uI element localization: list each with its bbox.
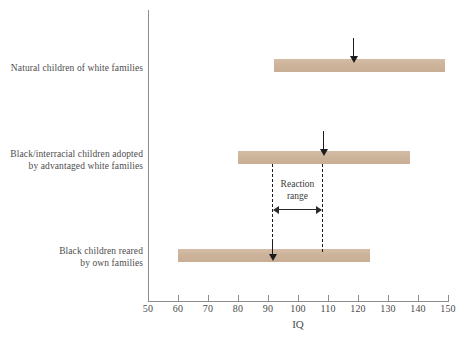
arrow-shaft: [278, 209, 317, 210]
mean-arrow-natural-children-white: [349, 38, 358, 57]
x-tick-60: [178, 295, 179, 302]
arrow-shaft: [353, 38, 354, 57]
x-tick-120: [358, 295, 359, 302]
reaction-range-chart: 50 60 70 80 90 100 110 120 130 140 150 I…: [0, 0, 472, 340]
x-tick-110: [328, 295, 329, 302]
x-tick-70: [208, 295, 209, 302]
x-tick-label-60: 60: [173, 303, 183, 314]
x-tick-label-50: 50: [143, 303, 153, 314]
y-axis-line: [148, 10, 149, 302]
x-tick-130: [388, 295, 389, 302]
x-tick-90: [268, 295, 269, 302]
x-axis-title: IQ: [292, 318, 304, 330]
arrow-head-down-icon: [320, 149, 328, 156]
arrow-shaft: [323, 131, 324, 150]
x-tick-label-90: 90: [263, 303, 273, 314]
x-tick-140: [418, 295, 419, 302]
x-tick-label-130: 130: [380, 303, 396, 314]
category-label-adopted-children: Black/interracial children adopted by ad…: [10, 148, 143, 172]
x-tick-label-140: 140: [410, 303, 426, 314]
reaction-range-double-arrow-icon: [273, 205, 322, 214]
x-tick-label-120: 120: [350, 303, 366, 314]
x-tick-label-110: 110: [320, 303, 335, 314]
mean-arrow-adopted-children: [319, 131, 328, 150]
x-tick-label-150: 150: [440, 303, 456, 314]
x-tick-50: [148, 295, 149, 302]
x-tick-100: [298, 295, 299, 302]
x-tick-150: [448, 295, 449, 302]
category-label-natural-children-white: Natural children of white families: [11, 62, 143, 74]
arrow-head-down-icon: [350, 56, 358, 63]
arrow-head-down-icon: [269, 254, 277, 261]
range-bar-natural-children-white: [274, 59, 445, 72]
arrow-head-right-icon: [316, 206, 322, 214]
x-tick-label-80: 80: [233, 303, 243, 314]
x-tick-label-70: 70: [203, 303, 213, 314]
x-tick-label-100: 100: [290, 303, 306, 314]
category-label-black-children-own: Black children reared by own families: [59, 245, 143, 269]
reaction-range-label: Reaction range: [272, 178, 323, 202]
x-tick-80: [238, 295, 239, 302]
